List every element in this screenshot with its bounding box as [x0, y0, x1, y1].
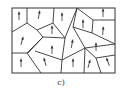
- grain-boundary: [85, 48, 101, 73]
- arrow-up-icon: [20, 36, 25, 45]
- grain-boundary: [28, 37, 43, 53]
- grain-boundary: [96, 55, 115, 58]
- arrow-up-icon: [51, 25, 54, 34]
- arrow-up-icon: [70, 39, 74, 48]
- grain-boundary: [43, 37, 65, 38]
- grain-boundary: [77, 8, 115, 20]
- grain-boundary: [73, 8, 115, 48]
- arrow-up-icon: [102, 8, 105, 17]
- grain-boundary: [12, 8, 27, 32]
- arrow-up-icon: [20, 58, 23, 67]
- arrow-up-icon: [72, 58, 75, 67]
- arrow-up-icon: [37, 10, 41, 19]
- figure-caption: c): [0, 78, 122, 87]
- grain-boundary: [27, 53, 41, 73]
- arrow-up-icon: [87, 59, 92, 68]
- grain-boundary: [35, 51, 62, 60]
- arrow-up-icon: [101, 26, 104, 35]
- grain-boundary: [27, 8, 54, 30]
- grain-boundary: [92, 33, 115, 44]
- arrow-up-icon: [42, 57, 47, 66]
- grain-boundary: [61, 60, 62, 73]
- arrow-up-icon: [51, 45, 54, 54]
- arrow-up-icon: [61, 12, 64, 21]
- grain-boundary: [84, 48, 85, 73]
- arrow-up-icon: [82, 19, 85, 28]
- arrow-up-icon: [18, 11, 21, 20]
- arrow-up-icon: [105, 57, 111, 66]
